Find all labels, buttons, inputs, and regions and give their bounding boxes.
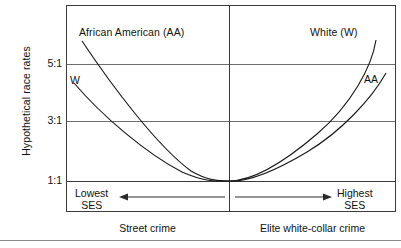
x-caption-street-crime: Street crime [66,222,229,234]
y-axis-tick-label: 1:1 [32,175,62,186]
highest-ses-annotation: Highest SES [337,187,373,211]
y-axis-tick-labels: 5:1 3:1 1:1 [28,0,62,248]
plot-area: African American (AA) W White (W) AA Low… [66,5,396,212]
lowest-ses-line1: Lowest [75,187,108,199]
y-axis-tick-label: 5:1 [32,58,62,69]
lowest-ses-line2: SES [75,199,108,211]
highest-ses-line2: SES [337,199,373,211]
highest-ses-line1: Highest [337,187,373,199]
x-caption-elite-white-collar-crime: Elite white-collar crime [229,222,396,234]
bottom-divider-rule [0,240,401,241]
chart-figure: Hypothetical race rates 5:1 3:1 1:1 [0,0,401,248]
series-label-african-american: African American (AA) [79,26,184,38]
y-axis-tick-label: 3:1 [32,115,62,126]
lowest-ses-annotation: Lowest SES [75,187,108,211]
series-label-african-american-short: AA [364,73,378,85]
series-label-white: White (W) [310,26,358,38]
curve-white [74,40,376,181]
series-label-white-short: W [70,74,80,86]
